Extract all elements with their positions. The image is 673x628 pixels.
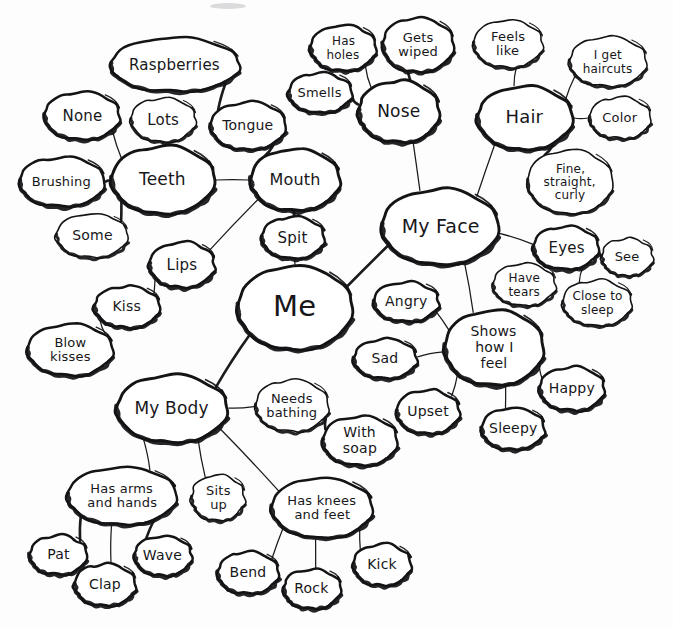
edge-hair-to-color: [574, 118, 588, 119]
node-label-line: Pat: [47, 546, 70, 562]
node-label-line: My Face: [402, 215, 480, 237]
node-label-line: Lips: [167, 256, 198, 274]
node-has-arms-and-hands[interactable]: Has armsand hands: [66, 467, 177, 527]
node-me[interactable]: Me: [236, 265, 352, 351]
mind-map-canvas: MeMy FaceMy BodyMouthTeethNoseHairShowsh…: [0, 0, 673, 628]
node-label-line: Gets: [403, 29, 434, 44]
node-label-line: up: [210, 497, 227, 512]
node-label: See: [615, 249, 640, 264]
node-label: Havetears: [508, 271, 540, 298]
node-label-line: soap: [343, 440, 377, 456]
node-label-line: Has: [332, 34, 355, 48]
node-label: Teeth: [138, 169, 186, 189]
node-label: Pat: [47, 546, 70, 562]
node-label: Blowkisses: [50, 334, 91, 364]
node-label-line: and feet: [294, 507, 350, 522]
node-tongue[interactable]: Tongue: [209, 101, 286, 151]
node-label-line: straight,: [544, 175, 596, 189]
node-label-line: Sleepy: [489, 420, 537, 436]
node-label-line: Fine,: [556, 161, 585, 175]
node-label-line: Kiss: [112, 298, 140, 314]
node-hair[interactable]: Hair: [476, 85, 573, 151]
node-label: Lips: [167, 256, 198, 274]
node-happy[interactable]: Happy: [538, 366, 605, 413]
node-sleepy[interactable]: Sleepy: [480, 408, 545, 452]
node-label: Kiss: [112, 298, 140, 314]
node-label-line: Feels: [491, 28, 525, 43]
node-label: Raspberries: [129, 56, 220, 74]
node-label-line: like: [496, 43, 519, 58]
node-label: Bend: [230, 564, 267, 580]
edge-has-arms-and-hands-to-pat: [80, 516, 81, 541]
node-label-line: Has arms: [90, 480, 153, 495]
node-label-line: Some: [72, 227, 113, 243]
node-label-line: Close to: [572, 289, 622, 303]
node-label: Sitsup: [206, 482, 231, 512]
node-mouth[interactable]: Mouth: [250, 149, 341, 213]
node-label-line: how I: [475, 339, 513, 355]
node-label-line: Happy: [549, 380, 595, 396]
node-label-line: Rock: [294, 580, 329, 596]
node-label-line: Blow: [54, 334, 86, 349]
node-label: Mouth: [270, 170, 321, 189]
node-has-holes[interactable]: Hasholes: [309, 25, 377, 73]
node-label: Spit: [278, 229, 308, 247]
node-label-line: holes: [326, 47, 359, 61]
node-label-line: Kick: [367, 556, 397, 572]
node-brushing[interactable]: Brushing: [19, 157, 105, 209]
node-label-line: Lots: [147, 111, 179, 129]
node-label-line: Hair: [505, 106, 543, 127]
node-label: Clap: [89, 576, 121, 592]
node-label-line: With: [343, 424, 376, 440]
node-label-line: bathing: [266, 405, 317, 420]
node-nose[interactable]: Nose: [357, 80, 440, 145]
node-label-line: sleep: [581, 302, 614, 316]
node-label: Lots: [147, 111, 179, 129]
node-label: Some: [72, 227, 113, 243]
node-with-soap[interactable]: Withsoap: [322, 416, 399, 468]
node-shows-how-i-feel[interactable]: Showshow Ifeel: [443, 310, 544, 388]
node-label-line: Smells: [298, 85, 342, 100]
node-lips[interactable]: Lips: [148, 241, 216, 290]
node-label: Hasholes: [326, 34, 359, 61]
node-label: None: [62, 107, 102, 125]
node-sad[interactable]: Sad: [352, 338, 418, 381]
node-label: Tongue: [221, 117, 273, 133]
node-label-line: None: [62, 107, 102, 125]
node-label-line: Shows: [470, 323, 516, 339]
node-label-line: Needs: [271, 390, 313, 405]
node-eyes[interactable]: Eyes: [532, 225, 600, 271]
node-label: Sleepy: [489, 420, 537, 436]
node-wave[interactable]: Wave: [133, 536, 192, 578]
node-label: My Face: [402, 215, 480, 237]
node-label-line: Angry: [385, 293, 427, 309]
node-label: Withsoap: [343, 424, 377, 456]
node-label-line: Sits: [206, 482, 231, 497]
node-label: Has armsand hands: [87, 480, 157, 510]
node-label-line: Upset: [407, 403, 449, 419]
node-label: My Body: [134, 398, 208, 418]
node-label-line: See: [615, 249, 640, 264]
node-label-line: Nose: [377, 101, 420, 121]
node-label: Hair: [505, 106, 543, 127]
node-some[interactable]: Some: [55, 214, 129, 260]
node-label-line: Tongue: [221, 117, 273, 133]
node-label: Brushing: [32, 174, 91, 189]
node-label-line: feel: [481, 355, 508, 371]
node-label-line: Eyes: [549, 239, 585, 257]
node-label: Color: [602, 110, 637, 125]
node-label-line: Mouth: [270, 170, 321, 189]
node-label: Me: [273, 289, 316, 323]
node-label: Nose: [377, 101, 420, 121]
node-label-line: Wave: [143, 547, 182, 563]
node-has-knees-and-feet[interactable]: Has kneesand feet: [270, 478, 373, 540]
node-label: Smells: [298, 85, 342, 100]
node-label-line: haircuts: [583, 61, 633, 75]
node-label-line: Brushing: [32, 174, 91, 189]
node-label-line: I get: [594, 48, 622, 62]
node-label-line: Me: [273, 289, 316, 323]
node-none[interactable]: None: [43, 91, 120, 141]
node-rock[interactable]: Rock: [282, 569, 341, 611]
node-label-line: Clap: [89, 576, 121, 592]
node-label: Rock: [294, 580, 329, 596]
